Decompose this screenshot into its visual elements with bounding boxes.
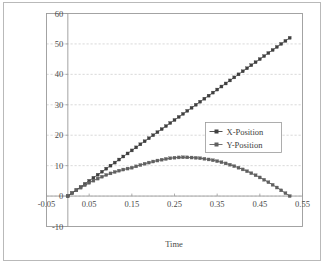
data-point-marker (207, 94, 210, 97)
data-point-marker (122, 155, 125, 158)
data-point-marker (71, 192, 74, 195)
data-point-marker (143, 140, 146, 143)
data-point-marker (203, 157, 206, 160)
x-tick-label-3: 0.25 (167, 199, 182, 209)
data-point-marker (130, 149, 133, 152)
y-tick-label-0: -10 (52, 222, 63, 232)
data-point-marker (280, 189, 283, 192)
data-point-marker (288, 195, 291, 198)
data-point-marker (126, 167, 129, 170)
data-point-marker (267, 52, 270, 55)
y-tick-labels-group: -100102030405060 (52, 9, 63, 232)
data-point-marker (203, 97, 206, 100)
data-point-marker (130, 166, 133, 169)
data-point-marker (250, 172, 253, 175)
x-tick-labels-group: -0.050.050.150.250.350.450.55 (38, 199, 310, 209)
data-point-marker (224, 162, 227, 165)
data-point-marker (169, 157, 172, 160)
data-point-marker (241, 168, 244, 171)
data-point-marker (100, 170, 103, 173)
data-point-marker (100, 175, 103, 178)
data-point-marker (113, 170, 116, 173)
data-point-marker (75, 189, 78, 192)
data-point-marker (143, 162, 146, 165)
data-point-marker (288, 36, 291, 39)
data-point-marker (160, 158, 163, 161)
data-point-marker (92, 176, 95, 179)
data-point-marker (194, 103, 197, 106)
data-point-marker (182, 156, 185, 159)
data-point-marker (173, 156, 176, 159)
data-point-marker (284, 192, 287, 195)
data-point-marker (105, 167, 108, 170)
data-point-marker (66, 195, 69, 198)
data-point-marker (271, 183, 274, 186)
data-point-marker (207, 158, 210, 161)
data-point-marker (88, 181, 91, 184)
y-tick-label-7: 60 (55, 9, 64, 19)
data-point-marker (160, 128, 163, 131)
data-point-marker (96, 173, 99, 176)
y-tick-label-3: 20 (55, 130, 64, 140)
series-x-position (66, 36, 291, 197)
data-point-marker (147, 161, 150, 164)
data-point-marker (194, 156, 197, 159)
x-tick-label-4: 0.35 (210, 199, 225, 209)
legend-label-0: X-Position (227, 127, 265, 137)
data-point-marker (83, 184, 86, 187)
data-point-marker (216, 160, 219, 163)
data-point-marker (241, 70, 244, 73)
data-point-marker (182, 112, 185, 115)
series-y-position (66, 156, 291, 198)
data-point-marker (246, 67, 249, 70)
data-point-marker (173, 119, 176, 122)
data-series-group (66, 36, 291, 197)
data-point-marker (220, 85, 223, 88)
legend-marker-1 (215, 143, 219, 147)
data-point-marker (263, 55, 266, 58)
data-point-marker (92, 179, 95, 182)
data-point-marker (164, 125, 167, 128)
data-point-marker (271, 49, 274, 52)
chart-root: -0.050.050.150.250.350.450.55 -100102030… (0, 0, 325, 270)
data-point-marker (228, 163, 231, 166)
data-point-marker (177, 115, 180, 118)
data-point-marker (147, 137, 150, 140)
data-point-marker (211, 91, 214, 94)
data-point-marker (254, 61, 257, 64)
x-tick-label-2: 0.15 (124, 199, 139, 209)
data-point-marker (220, 161, 223, 164)
data-point-marker (186, 109, 189, 112)
data-point-marker (211, 159, 214, 162)
data-point-marker (233, 76, 236, 79)
data-point-marker (186, 156, 189, 159)
data-point-marker (139, 143, 142, 146)
line-chart-svg: -0.050.050.150.250.350.450.55 -100102030… (0, 0, 325, 270)
y-tick-label-2: 10 (55, 161, 64, 171)
chart-legend[interactable]: X-PositionY-Position (206, 123, 282, 153)
data-point-marker (156, 159, 159, 162)
data-point-marker (105, 173, 108, 176)
data-point-marker (275, 186, 278, 189)
data-point-marker (109, 164, 112, 167)
data-point-marker (169, 122, 172, 125)
data-point-marker (284, 39, 287, 42)
data-point-marker (152, 134, 155, 137)
x-tick-label-6: 0.55 (295, 199, 310, 209)
data-point-marker (122, 168, 125, 171)
data-point-marker (118, 169, 121, 172)
y-tick-label-5: 40 (55, 69, 64, 79)
data-point-marker (237, 166, 240, 169)
data-point-marker (118, 158, 121, 161)
data-point-marker (109, 172, 112, 175)
data-point-marker (237, 73, 240, 76)
data-point-marker (156, 131, 159, 134)
chart-canvas: -0.050.050.150.250.350.450.55 -100102030… (0, 0, 325, 270)
data-point-marker (199, 100, 202, 103)
x-tick-label-0: -0.05 (38, 199, 56, 209)
data-point-marker (216, 88, 219, 91)
data-point-marker (135, 165, 138, 168)
legend-label-1: Y-Position (227, 140, 264, 150)
data-point-marker (275, 45, 278, 48)
x-tick-label-1: 0.05 (82, 199, 97, 209)
